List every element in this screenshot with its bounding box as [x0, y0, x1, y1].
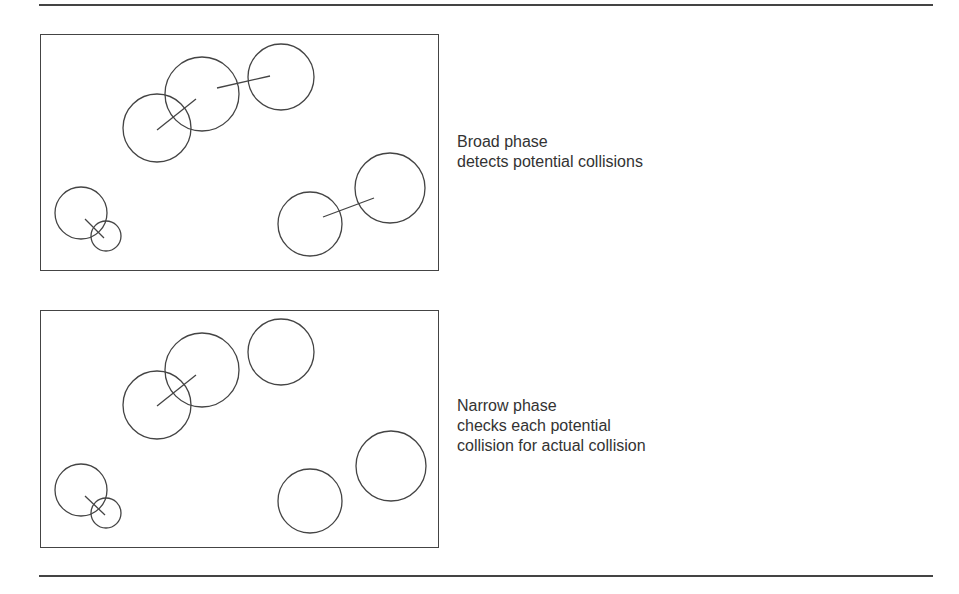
broad-phase-caption: Broad phase detects potential collisions	[457, 132, 643, 172]
broad-phase-circles-figure	[41, 35, 440, 272]
broad-phase-panel	[40, 34, 439, 271]
narrow-phase-description-line-2: collision for actual collision	[457, 436, 646, 456]
narrow-phase-caption: Narrow phase checks each potential colli…	[457, 396, 646, 456]
body-circle	[123, 371, 191, 439]
body-circle	[248, 44, 314, 110]
narrow-phase-title: Narrow phase	[457, 396, 646, 416]
broad-phase-title: Broad phase	[457, 132, 643, 152]
body-circle	[165, 57, 239, 131]
body-circle	[91, 498, 121, 528]
body-circle	[91, 221, 121, 251]
bottom-rule	[39, 575, 933, 577]
narrow-phase-description-line-1: checks each potential	[457, 416, 646, 436]
narrow-phase-circles-figure	[41, 311, 440, 549]
collision-link-line	[217, 76, 270, 88]
body-circle	[123, 94, 191, 162]
body-circle	[355, 153, 425, 223]
body-circle	[165, 333, 239, 407]
body-circle	[356, 431, 426, 501]
body-circle	[278, 192, 342, 256]
top-rule	[39, 4, 933, 6]
narrow-phase-panel	[40, 310, 439, 548]
broad-phase-description: detects potential collisions	[457, 152, 643, 172]
body-circle	[278, 469, 342, 533]
body-circle	[55, 187, 107, 239]
body-circle	[55, 464, 107, 516]
body-circle	[248, 319, 314, 385]
collision-link-line	[157, 99, 196, 130]
